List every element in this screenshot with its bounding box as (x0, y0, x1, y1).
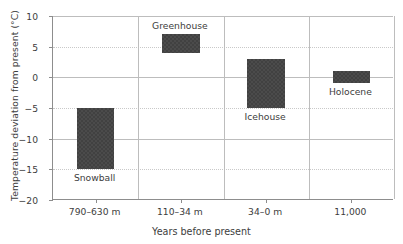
y-tick-mark (49, 47, 53, 48)
gridline-vertical (224, 16, 225, 199)
y-tick-label: 10 (0, 11, 38, 22)
bar-holocene (333, 71, 371, 83)
bar-snowball (77, 108, 115, 169)
bar-label-snowball: Snowball (25, 172, 165, 183)
y-tick-label: 5 (0, 41, 38, 52)
x-tick-mark (181, 199, 182, 203)
bar-label-icehouse: Icehouse (195, 111, 335, 122)
x-tick-label: 11,000 (290, 206, 403, 217)
x-tick-mark (266, 199, 267, 203)
y-tick-mark (49, 169, 53, 170)
gridline-vertical (394, 16, 395, 199)
y-tick-mark (49, 16, 53, 17)
bar-label-greenhouse: Greenhouse (110, 20, 250, 31)
y-tick-mark (49, 139, 53, 140)
bar-label-holocene: Holocene (280, 86, 403, 97)
y-tick-mark (49, 77, 53, 78)
y-tick-mark (49, 108, 53, 109)
bar-icehouse (247, 59, 285, 108)
y-tick-label: −10 (0, 133, 38, 144)
y-tick-mark (49, 200, 53, 201)
bar-greenhouse (162, 34, 200, 52)
y-tick-label: −5 (0, 103, 38, 114)
x-tick-mark (351, 199, 352, 203)
y-tick-label: 0 (0, 72, 38, 83)
gridline-vertical (309, 16, 310, 199)
temperature-deviation-bar-chart: Temperature deviation from present (°C) … (0, 0, 403, 244)
x-axis-title: Years before present (0, 226, 403, 237)
x-tick-mark (96, 199, 97, 203)
y-tick-label: −20 (0, 195, 38, 206)
